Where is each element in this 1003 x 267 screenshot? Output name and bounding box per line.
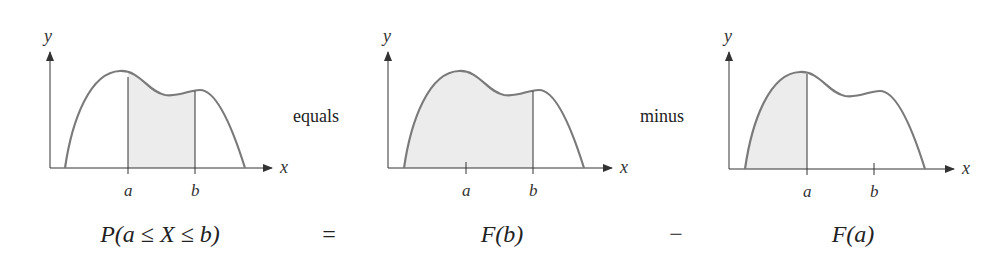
b-label: b [870,182,879,201]
equals-word: equals [293,106,339,127]
formula-Fa: F(a) [832,221,875,248]
a-label: a [462,181,471,200]
formula-probability: P(a ≤ X ≤ b) [100,221,220,248]
y-label: y [42,26,52,46]
minus-sign: − [669,221,683,248]
y-label: y [381,26,391,46]
shaded-area [65,71,245,168]
b-label: b [529,181,538,200]
panel-2 [388,52,612,174]
panel-1 [50,52,272,174]
x-label: x [279,157,288,177]
minus-word: minus [640,106,684,127]
panel-3 [729,52,954,175]
b-label: b [191,181,200,200]
equals-sign: = [322,221,336,248]
shaded-area [745,72,925,169]
x-label: x [619,157,628,177]
a-label: a [124,181,133,200]
shaded-area [404,71,584,168]
y-label: y [722,26,732,46]
x-label: x [961,158,970,178]
formula-Fb: F(b) [481,221,524,248]
a-label: a [803,182,812,201]
